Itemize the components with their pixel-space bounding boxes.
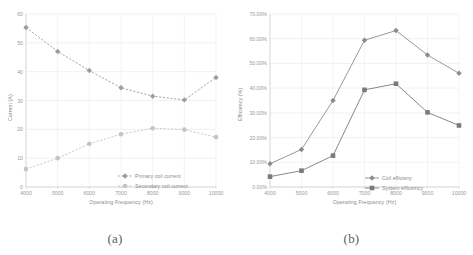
data-point (425, 110, 430, 115)
chart-a: Current (A) Operating Frequency (Hz) 010… (0, 0, 230, 215)
x-tick-label: 4000 (20, 190, 32, 196)
x-tick-label: 10000 (209, 190, 223, 196)
y-tick-label: 60.00% (230, 36, 267, 42)
data-point (299, 168, 304, 173)
chart-b-x-axis-title: Operating Frequency (Hz) (270, 199, 459, 205)
data-point (182, 127, 187, 132)
data-point (394, 81, 399, 86)
data-point (268, 174, 273, 179)
x-tick-label: 7000 (359, 190, 371, 196)
data-point (457, 123, 462, 128)
x-tick-label: 8000 (147, 190, 159, 196)
legend-label[interactable]: Secondary coil current (135, 183, 188, 189)
x-tick-label: 5000 (52, 190, 64, 196)
y-tick-label: 40.00% (230, 85, 267, 91)
panel-b: Efficiency (%) Operating Frequency (Hz) … (230, 0, 473, 255)
x-tick-label: 9000 (422, 190, 434, 196)
panel-b-caption: (b) (230, 231, 473, 247)
data-point (362, 88, 367, 93)
panel-a-caption: (a) (0, 231, 230, 247)
data-point (150, 126, 155, 131)
chart-a-canvas (0, 0, 230, 215)
x-tick-label: 4000 (264, 190, 276, 196)
x-tick-label: 6000 (84, 190, 96, 196)
data-point (214, 135, 219, 140)
y-tick-label: 10.00% (230, 159, 267, 165)
y-tick-label: 70.00% (230, 11, 267, 17)
y-tick-label: 30.00% (230, 110, 267, 116)
data-point (119, 132, 124, 137)
data-point (24, 167, 29, 172)
data-point (331, 153, 336, 158)
y-tick-label: 50.00% (230, 60, 267, 66)
data-point (87, 141, 92, 146)
y-tick-label: 20.00% (230, 135, 267, 141)
y-tick-label: 50 (0, 40, 23, 46)
legend-label[interactable]: Coil efficieny (382, 175, 412, 181)
y-tick-label: 10 (0, 155, 23, 161)
y-tick-label: 60 (0, 11, 23, 17)
data-point (55, 156, 60, 161)
x-tick-label: 6000 (327, 190, 339, 196)
legend-label[interactable]: Primary coil current (135, 173, 181, 179)
x-tick-label: 10000 (452, 190, 466, 196)
legend-label[interactable]: System efficeincy (382, 185, 423, 191)
x-tick-label: 5000 (296, 190, 308, 196)
x-tick-label: 7000 (115, 190, 127, 196)
x-tick-label: 9000 (179, 190, 191, 196)
legend-marker (123, 184, 128, 189)
y-tick-label: 20 (0, 126, 23, 132)
chart-b-canvas (230, 0, 473, 215)
y-tick-label: 0.00% (230, 184, 267, 190)
figure-container: Current (A) Operating Frequency (Hz) 010… (0, 0, 473, 255)
y-tick-label: 40 (0, 69, 23, 75)
chart-b: Efficiency (%) Operating Frequency (Hz) … (230, 0, 473, 215)
panel-a: Current (A) Operating Frequency (Hz) 010… (0, 0, 230, 255)
chart-a-x-axis-title: Operating Frequency (Hz) (26, 199, 216, 205)
y-tick-label: 30 (0, 98, 23, 104)
